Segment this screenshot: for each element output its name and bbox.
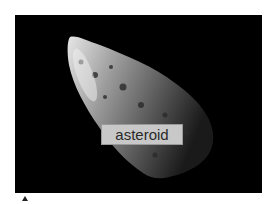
asteroid-label: asteroid xyxy=(101,124,183,145)
marker-icon xyxy=(22,196,28,201)
asteroid-illustration xyxy=(15,15,262,193)
asteroid-photo xyxy=(15,15,262,193)
